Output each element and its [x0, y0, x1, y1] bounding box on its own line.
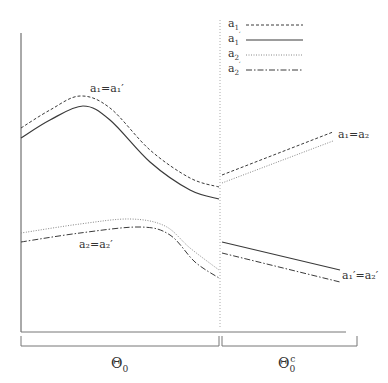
label-a1-eq-a1prime: a₁=a₁′	[90, 83, 124, 94]
brace-theta0c	[222, 336, 357, 346]
legend-lines	[246, 25, 303, 70]
diagram-canvas: a1 a1′ a2 a2′ a₁=a₁′ a₂=a₂′ a₁=a₂ a₁′=a₂…	[0, 0, 388, 383]
legend-label-a1: a1	[228, 18, 239, 29]
curve-a1-left	[21, 96, 219, 187]
region-label-theta0-complement: Θ0c	[278, 356, 300, 370]
label-a1-eq-a2: a₁=a₂	[338, 129, 369, 140]
curve-a2-left	[21, 219, 219, 270]
label-a2-eq-a2prime: a₂=a₂′	[79, 239, 113, 250]
brace-theta0	[21, 336, 219, 346]
curve-a2-right	[222, 141, 333, 183]
curve-a1-right	[222, 132, 333, 175]
legend-label-a2-prime: a2′	[228, 63, 241, 74]
curve-a2-prime-right	[222, 253, 340, 282]
curve-a1-prime-right	[222, 242, 340, 270]
curve-a2-prime-left	[21, 227, 219, 278]
curve-a1-prime-left	[21, 106, 219, 199]
region-label-theta0: Θ0	[111, 356, 128, 370]
label-a1prime-eq-a2prime: a₁′=a₂′	[342, 270, 378, 281]
curves-group	[21, 96, 340, 282]
legend-label-a2: a2	[228, 48, 239, 59]
diagram-svg	[0, 0, 388, 383]
legend-label-a1-prime: a1′	[228, 33, 241, 44]
